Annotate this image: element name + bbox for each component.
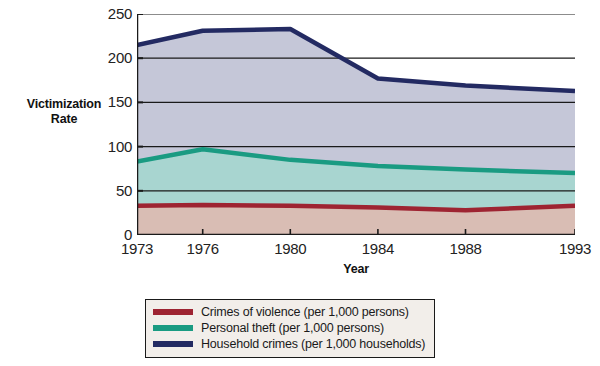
legend-label: Personal theft (per 1,000 persons)	[201, 321, 384, 335]
x-tick-label-1980: 1980	[255, 240, 325, 258]
plot-svg	[137, 14, 575, 235]
chart-legend: Crimes of violence (per 1,000 persons)Pe…	[145, 299, 435, 358]
victimization-rate-area-chart: Victimization Rate 050100150200250 19731…	[0, 0, 600, 366]
x-tick-label-1973: 1973	[102, 240, 172, 258]
legend-swatch-icon	[153, 341, 193, 347]
x-tick-label-1976: 1976	[168, 240, 238, 258]
legend-item[interactable]: Household crimes (per 1,000 households)	[153, 336, 425, 352]
legend-label: Crimes of violence (per 1,000 persons)	[201, 305, 409, 319]
x-tick-label-1993: 1993	[540, 240, 600, 258]
legend-swatch-icon	[153, 325, 193, 331]
y-tick-label-250: 250	[94, 6, 132, 21]
legend-item[interactable]: Personal theft (per 1,000 persons)	[153, 320, 425, 336]
y-tick-label-50: 50	[94, 183, 132, 198]
y-tick-label-100: 100	[94, 139, 132, 154]
y-tick-label-200: 200	[94, 50, 132, 65]
y-tick-label-150: 150	[94, 94, 132, 109]
x-axis-title: Year	[137, 262, 575, 276]
x-axis-tick-labels: 197319761980198419881993	[137, 240, 575, 262]
legend-item[interactable]: Crimes of violence (per 1,000 persons)	[153, 304, 425, 320]
x-tick-label-1988: 1988	[431, 240, 501, 258]
plot-area	[137, 14, 575, 235]
x-tick-label-1984: 1984	[343, 240, 413, 258]
legend-swatch-icon	[153, 309, 193, 315]
y-axis-tick-labels: 050100150200250	[88, 0, 132, 250]
legend-label: Household crimes (per 1,000 households)	[201, 337, 425, 351]
